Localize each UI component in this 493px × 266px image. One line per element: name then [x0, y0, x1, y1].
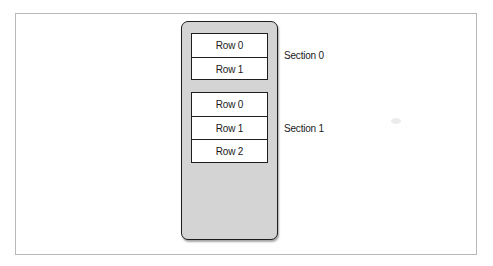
- table-row: Row 1: [192, 116, 267, 139]
- table-row: Row 2: [192, 139, 267, 162]
- table-row: Row 1: [192, 57, 267, 80]
- table-row: Row 0: [192, 34, 267, 57]
- table-section-1: Row 0 Row 1 Row 2: [191, 92, 268, 163]
- table-row: Row 0: [192, 93, 267, 116]
- table-section-0: Row 0 Row 1: [191, 33, 268, 80]
- section-0-label: Section 0: [284, 50, 324, 61]
- scan-artifact: [391, 118, 401, 124]
- section-1-label: Section 1: [284, 123, 324, 134]
